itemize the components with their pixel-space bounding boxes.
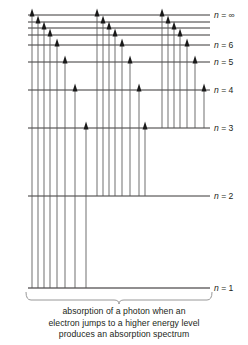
transition-arrowhead-t-2-8 (107, 22, 112, 30)
transition-arrowhead-t-2-9 (101, 16, 106, 24)
level-label-n-3: n = 3 (214, 123, 234, 133)
level-label-n-6: n = 6 (214, 40, 234, 50)
transition-arrowhead-t-1-9 (36, 16, 41, 24)
transition-arrowhead-t-1-3 (84, 122, 89, 130)
diagram-canvas: n = ∞n = 6n = 5n = 4n = 3n = 2n = 1 (0, 0, 248, 345)
level-labels-group: n = ∞n = 6n = 5n = 4n = 3n = 2n = 1 (214, 10, 235, 293)
transition-arrowhead-t-3-4 (202, 84, 207, 92)
transition-arrowhead-t-1-5 (63, 56, 68, 64)
transition-arrowhead-t-3-5 (193, 56, 198, 64)
transition-arrowhead-t-2-inf (95, 9, 100, 17)
transition-arrowhead-t-2-4 (137, 84, 142, 92)
transition-arrowhead-t-1-6 (55, 39, 60, 47)
transition-arrowhead-t-3-6 (185, 39, 190, 47)
transition-arrowhead-t-2-5 (128, 56, 133, 64)
level-label-n-5: n = 5 (214, 57, 234, 67)
caption-brace (26, 292, 212, 304)
transition-arrowhead-t-1-inf (30, 9, 35, 17)
brace-group (26, 292, 212, 304)
energy-level-diagram: n = ∞n = 6n = 5n = 4n = 3n = 2n = 1 (0, 0, 248, 345)
level-label-n-1: n = 1 (214, 283, 234, 293)
transition-arrowhead-t-2-3 (143, 122, 148, 130)
transition-arrowhead-t-1-4 (73, 84, 78, 92)
caption-line-2: electron jumps to a higher energy level (0, 318, 248, 330)
level-label-n-2: n = 2 (214, 191, 234, 201)
caption-line-1: absorption of a photon when an (0, 306, 248, 318)
level-label-n-4: n = 4 (214, 85, 234, 95)
figure-caption: absorption of a photon when an electron … (0, 306, 248, 341)
transition-arrowhead-t-1-8 (42, 22, 47, 30)
transition-arrowhead-t-3-9 (166, 16, 171, 24)
transition-arrowhead-t-2-6 (120, 39, 125, 47)
transitions-group (30, 9, 207, 289)
transition-arrowhead-t-3-8 (172, 22, 177, 30)
transition-arrowhead-t-3-7 (178, 29, 183, 37)
transition-arrowhead-t-2-7 (113, 29, 118, 37)
level-label-n-infinity: n = ∞ (214, 10, 235, 20)
caption-line-3: produces an absorption spectrum (0, 329, 248, 341)
energy-levels-group (28, 15, 210, 288)
transition-arrowhead-t-1-7 (48, 29, 53, 37)
transition-arrowhead-t-3-inf (160, 9, 165, 17)
